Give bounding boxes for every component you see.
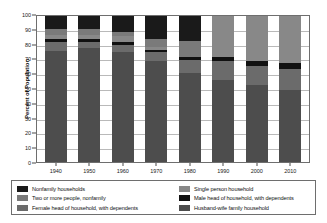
bar-segment bbox=[179, 73, 201, 162]
y-tick-label: 40 bbox=[25, 101, 31, 107]
bar-segment bbox=[179, 41, 201, 57]
legend-swatch-icon bbox=[17, 186, 28, 192]
bar-segment bbox=[112, 45, 134, 52]
legend-swatch-icon bbox=[17, 195, 28, 201]
bar-segment bbox=[145, 39, 167, 46]
bar-1980 bbox=[179, 16, 201, 162]
legend-swatch-icon bbox=[179, 205, 190, 211]
bar-segment bbox=[246, 85, 268, 162]
bar-2000 bbox=[246, 16, 268, 162]
x-tick-mark bbox=[55, 163, 56, 166]
bar-segment bbox=[246, 16, 268, 61]
x-tick-mark bbox=[122, 163, 123, 166]
bar-segment bbox=[212, 16, 234, 57]
bar-segment bbox=[112, 52, 134, 162]
legend-label: Nonfamily households bbox=[32, 186, 85, 192]
bar-segment bbox=[145, 61, 167, 162]
legend-label: Single person household bbox=[194, 186, 253, 192]
x-tick-label: 2010 bbox=[284, 168, 296, 174]
legend-item: Single person household bbox=[179, 184, 319, 194]
plot-area bbox=[36, 15, 310, 163]
x-tick-label: 1990 bbox=[217, 168, 229, 174]
legend-column-left: Nonfamily householdsTwo or more people, … bbox=[17, 184, 177, 213]
legend-label: Husband-wife family household bbox=[194, 205, 269, 211]
legend-item: Female head of household, with dependent… bbox=[17, 203, 177, 213]
y-tick-label: 30 bbox=[25, 116, 31, 122]
x-tick-mark bbox=[290, 163, 291, 166]
bar-1960 bbox=[112, 16, 134, 162]
x-tick-mark bbox=[256, 163, 257, 166]
legend-item: Two or more people, nonfamily bbox=[17, 194, 177, 204]
legend-swatch-icon bbox=[179, 195, 190, 201]
bar-1970 bbox=[145, 16, 167, 162]
y-tick-label: 0 bbox=[28, 160, 31, 166]
x-tick-mark bbox=[189, 163, 190, 166]
bar-segment bbox=[78, 16, 100, 29]
y-tick-label: 60 bbox=[25, 71, 31, 77]
x-tick-label: 1940 bbox=[50, 168, 62, 174]
bar-segment bbox=[45, 16, 67, 29]
x-tick-label: 1950 bbox=[83, 168, 95, 174]
x-tick-label: 1970 bbox=[150, 168, 162, 174]
chart-figure: Percent of Population 010203040506070809… bbox=[0, 0, 327, 223]
bar-segment bbox=[212, 80, 234, 162]
bar-1940 bbox=[45, 16, 67, 162]
legend-column-right: Single person householdMale head of hous… bbox=[179, 184, 319, 213]
bar-segment bbox=[279, 16, 301, 63]
bar-segment bbox=[246, 66, 268, 85]
bar-1990 bbox=[212, 16, 234, 162]
bar-segment bbox=[279, 90, 301, 162]
bar-2010 bbox=[279, 16, 301, 162]
bar-segment bbox=[45, 42, 67, 51]
x-tick-label: 1960 bbox=[117, 168, 129, 174]
x-tick-mark bbox=[223, 163, 224, 166]
x-tick-label: 2000 bbox=[251, 168, 263, 174]
legend-swatch-icon bbox=[179, 186, 190, 192]
legend-label: Female head of household, with dependent… bbox=[32, 205, 138, 211]
x-tick-label: 1980 bbox=[184, 168, 196, 174]
bar-segment bbox=[179, 60, 201, 73]
bar-group bbox=[37, 16, 309, 162]
y-tick-label: 90 bbox=[25, 27, 31, 33]
legend: Nonfamily householdsTwo or more people, … bbox=[11, 180, 316, 215]
bar-segment bbox=[145, 52, 167, 61]
y-tick-label: 80 bbox=[25, 42, 31, 48]
y-axis: 0102030405060708090100 bbox=[0, 15, 36, 163]
bar-1950 bbox=[78, 16, 100, 162]
x-axis: 19401950196019701980199020002010 bbox=[36, 163, 310, 177]
legend-label: Male head of household, with dependents bbox=[194, 195, 294, 201]
bar-segment bbox=[78, 48, 100, 162]
x-tick-mark bbox=[156, 163, 157, 166]
legend-item: Husband-wife family household bbox=[179, 203, 319, 213]
bar-segment bbox=[45, 51, 67, 162]
legend-item: Nonfamily households bbox=[17, 184, 177, 194]
y-tick-label: 20 bbox=[25, 130, 31, 136]
bar-segment bbox=[112, 16, 134, 32]
bar-segment bbox=[145, 16, 167, 39]
bar-segment bbox=[212, 61, 234, 80]
y-tick-label: 70 bbox=[25, 56, 31, 62]
y-tick-label: 50 bbox=[25, 86, 31, 92]
legend-item: Male head of household, with dependents bbox=[179, 194, 319, 204]
bar-segment bbox=[279, 69, 301, 91]
bar-segment bbox=[179, 16, 201, 41]
legend-label: Two or more people, nonfamily bbox=[32, 195, 106, 201]
legend-swatch-icon bbox=[17, 205, 28, 211]
y-tick-label: 10 bbox=[25, 145, 31, 151]
y-tick-label: 100 bbox=[22, 12, 31, 18]
x-tick-mark bbox=[89, 163, 90, 166]
